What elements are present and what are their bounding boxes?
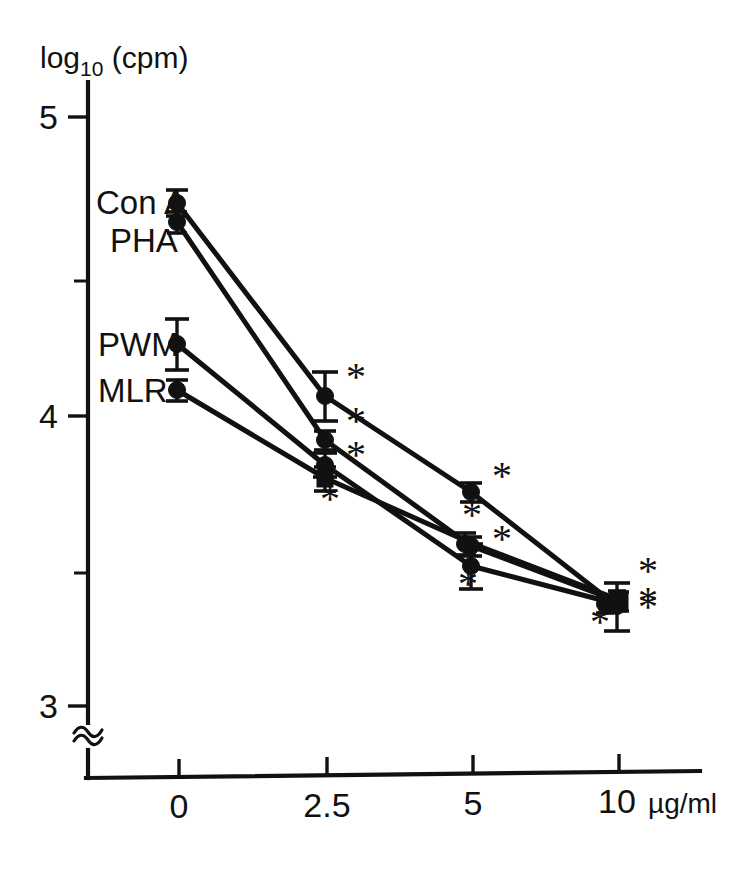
y-tick-label-4: 4 xyxy=(39,397,58,435)
figure-root: log10 (cpm) 5 4 3 xyxy=(0,0,748,874)
data-point-mlr-0 xyxy=(166,379,188,402)
series-label-mlr: MLR xyxy=(98,372,168,409)
significance-asterisk: * xyxy=(346,432,366,477)
significance-asterisk: * xyxy=(492,453,512,498)
significance-asterisk: * xyxy=(462,492,482,537)
y-axis-ticks: 5 4 3 xyxy=(39,98,88,725)
series-points-con-a xyxy=(166,189,630,632)
series-points-pha xyxy=(167,211,629,612)
series-labels: Con A PHA PWM MLR xyxy=(96,184,186,409)
significance-asterisk: * xyxy=(458,561,478,606)
y-tick-label-5: 5 xyxy=(39,98,58,136)
y-tick-label-3: 3 xyxy=(39,687,58,725)
significance-asterisk: * xyxy=(590,599,610,644)
significance-asterisk: * xyxy=(346,354,366,399)
series-line-con-a xyxy=(177,203,617,606)
axis-break-icon xyxy=(74,727,102,744)
series-label-con-a: Con A xyxy=(96,184,186,221)
series-lines xyxy=(177,203,617,606)
significance-asterisk: * xyxy=(492,516,512,561)
y-axis-title-main: log xyxy=(40,41,80,74)
x-tick-label-5: 5 xyxy=(464,784,483,822)
y-axis-title: log10 (cpm) xyxy=(40,41,188,80)
dose-response-chart: log10 (cpm) 5 4 3 xyxy=(0,0,748,874)
y-axis-title-tail: (cpm) xyxy=(103,41,188,74)
series-line-pwm xyxy=(177,344,617,604)
x-tick-label-0: 0 xyxy=(170,787,189,825)
x-tick-label-10: 10 xyxy=(598,782,636,820)
significance-asterisk: * xyxy=(320,476,340,521)
svg-text:log10 (cpm): log10 (cpm) xyxy=(40,41,188,80)
data-point-mlr-3 xyxy=(608,590,626,609)
y-axis-title-subscript: 10 xyxy=(80,57,103,80)
significance-asterisk: * xyxy=(638,584,658,629)
series-label-pwm: PWM xyxy=(98,326,179,363)
x-axis-units-label: µg/ml xyxy=(648,788,717,819)
series-label-pha: PHA xyxy=(110,222,178,259)
x-tick-label-2p5: 2.5 xyxy=(303,786,350,824)
data-point-con-a-1 xyxy=(312,371,338,422)
series-line-pha xyxy=(177,222,617,601)
x-axis-ticks: 0 2.5 5 10 µg/ml xyxy=(170,754,717,825)
